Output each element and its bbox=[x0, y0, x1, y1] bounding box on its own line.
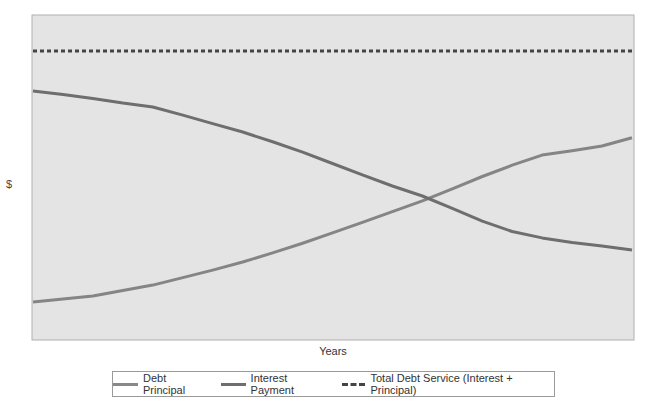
legend-label: Debt Principal bbox=[143, 372, 209, 396]
interest-line-swatch-icon bbox=[221, 383, 246, 386]
legend-item-interest: Interest Payment bbox=[221, 372, 331, 396]
principal-line-swatch-icon bbox=[113, 383, 138, 386]
x-axis-label: Years bbox=[0, 345, 648, 357]
y-axis-label: $ bbox=[6, 178, 12, 190]
legend-item-total: Total Debt Service (Interest + Principal… bbox=[342, 372, 554, 396]
legend-item-principal: Debt Principal bbox=[113, 372, 209, 396]
legend-label: Total Debt Service (Interest + Principal… bbox=[370, 372, 554, 396]
legend-label: Interest Payment bbox=[251, 372, 331, 396]
legend: Debt Principal Interest Payment Total De… bbox=[112, 371, 555, 397]
total-dotted-swatch-icon bbox=[342, 383, 365, 386]
